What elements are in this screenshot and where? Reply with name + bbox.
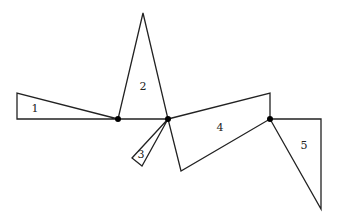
piece-5-label: 5 <box>301 139 308 152</box>
dissection-diagram: 12345 <box>0 0 341 223</box>
piece-2-polygon <box>118 13 168 119</box>
pieces-layer <box>17 13 321 209</box>
piece-4-label: 4 <box>217 121 224 134</box>
piece-1-label: 1 <box>32 102 39 115</box>
piece-3-label: 3 <box>138 148 145 161</box>
pivot-b-dot <box>165 116 171 122</box>
pivot-c-dot <box>267 116 273 122</box>
piece-5-polygon <box>270 119 321 209</box>
pivot-a-dot <box>115 116 121 122</box>
piece-2-label: 2 <box>140 80 147 93</box>
